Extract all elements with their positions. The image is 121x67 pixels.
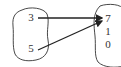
- domain-element-3: 3: [26, 12, 36, 23]
- range-element-1: 1: [103, 26, 113, 37]
- range-element-0: 0: [103, 39, 113, 50]
- domain-element-5: 5: [26, 43, 36, 54]
- range-element-7: 7: [103, 13, 113, 24]
